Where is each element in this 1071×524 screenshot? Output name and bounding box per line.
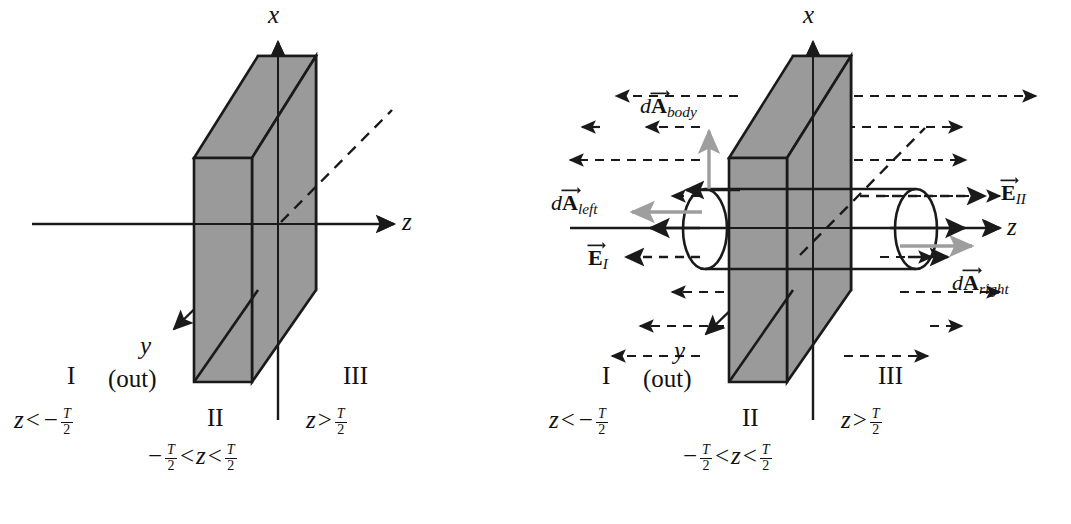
vector-arrow-overbar — [561, 185, 581, 194]
region-I-z-symbol: z — [549, 406, 559, 433]
region-III-denominator: 2 — [870, 422, 882, 438]
left-z-axis-label: z — [402, 209, 412, 234]
region-II-numerator-right: T — [760, 443, 772, 458]
region-II-operator-left: < — [178, 442, 196, 469]
region-III-z-symbol: z — [306, 406, 316, 433]
region-III-operator: > — [851, 406, 869, 433]
E-I-label: EI — [588, 247, 608, 271]
region-II-numerator-left: T — [700, 443, 712, 458]
region-I-numerator: T — [61, 407, 73, 422]
region-II-operator-right: < — [741, 442, 759, 469]
left-region-I-numeral: I — [67, 363, 75, 388]
dA-body-subscript: body — [667, 103, 697, 120]
region-I-denominator: 2 — [61, 422, 73, 438]
dA-left-subscript: left — [578, 200, 598, 217]
right-z-axis-label: z — [1007, 214, 1017, 239]
right-region-II-numeral: II — [742, 405, 759, 430]
region-II-operator-left: < — [713, 442, 731, 469]
region-I-denominator: 2 — [596, 422, 608, 438]
vector-arrow-overbar — [650, 88, 670, 97]
region-II-denominator-right: 2 — [225, 458, 237, 474]
region-I-numerator: T — [596, 407, 608, 422]
E-II-subscript: II — [1016, 190, 1026, 207]
right-x-axis-label: x — [803, 2, 814, 27]
right-y-axis-label: y — [674, 338, 685, 363]
region-III-denominator: 2 — [335, 422, 347, 438]
region-II-numerator-left: T — [165, 443, 177, 458]
right-region-III-condition: z>T2 — [841, 407, 883, 437]
right-region-I-condition: z<−T2 — [549, 407, 609, 437]
right-y-out-note: (out) — [643, 366, 692, 391]
right-region-I-numeral: I — [602, 363, 610, 388]
region-II-denominator-right: 2 — [760, 458, 772, 474]
region-I-z-symbol: z — [14, 406, 24, 433]
left-region-I-condition: z<−T2 — [14, 407, 74, 437]
vector-arrow-overbar — [962, 265, 982, 274]
dA-body-vector-symbol: A — [651, 95, 667, 117]
left-panel-group — [32, 42, 394, 420]
dA-left-label: dAleft — [551, 192, 598, 216]
region-I-fraction: T2 — [61, 407, 73, 437]
region-I-operator: < — [559, 406, 577, 433]
figure-canvas: x z y (out) I II III z<−T2 z>T2 −T2<z<T2… — [0, 0, 1071, 524]
E-I-subscript: I — [603, 255, 608, 272]
region-II-z-symbol: z — [731, 442, 741, 469]
left-region-II-numeral: II — [207, 405, 224, 430]
vector-arrow-overbar — [1000, 175, 1019, 184]
right-region-II-condition: −T2<z<T2 — [681, 443, 773, 473]
E-I-vector-symbol: E — [588, 247, 603, 269]
region-II-sign: − — [146, 442, 164, 469]
region-II-denominator-left: 2 — [700, 458, 712, 474]
region-I-sign: − — [42, 406, 60, 433]
region-II-fraction-left: T2 — [700, 443, 712, 473]
left-region-II-condition: −T2<z<T2 — [146, 443, 238, 473]
right-region-III-numeral: III — [878, 363, 903, 388]
region-I-operator: < — [24, 406, 42, 433]
region-III-fraction: T2 — [335, 407, 347, 437]
slab-front-face — [194, 158, 252, 382]
region-II-operator-right: < — [206, 442, 224, 469]
region-III-z-symbol: z — [841, 406, 851, 433]
dA-right-vector-symbol: A — [963, 272, 979, 294]
region-II-fraction-left: T2 — [165, 443, 177, 473]
region-III-numerator: T — [335, 407, 347, 422]
dA-body-label: dAbody — [640, 95, 697, 119]
region-II-fraction-right: T2 — [225, 443, 237, 473]
region-III-fraction: T2 — [870, 407, 882, 437]
dA-right-label: dAright — [952, 272, 1009, 296]
dA-left-vector-symbol: A — [562, 192, 578, 214]
region-II-fraction-right: T2 — [760, 443, 772, 473]
region-II-sign: − — [681, 442, 699, 469]
region-III-operator: > — [316, 406, 334, 433]
E-II-vector-symbol: E — [1001, 182, 1016, 204]
vector-arrow-overbar — [587, 240, 606, 249]
left-x-axis-label: x — [268, 2, 279, 27]
left-region-III-numeral: III — [343, 363, 368, 388]
region-II-z-symbol: z — [196, 442, 206, 469]
left-y-out-note: (out) — [108, 366, 157, 391]
region-I-fraction: T2 — [596, 407, 608, 437]
E-II-label: EII — [1001, 182, 1026, 206]
dA-right-subscript: right — [979, 280, 1009, 297]
region-II-numerator-right: T — [225, 443, 237, 458]
region-II-denominator-left: 2 — [165, 458, 177, 474]
left-y-axis-label: y — [140, 333, 151, 358]
region-III-numerator: T — [870, 407, 882, 422]
left-region-III-condition: z>T2 — [306, 407, 348, 437]
region-I-sign: − — [577, 406, 595, 433]
